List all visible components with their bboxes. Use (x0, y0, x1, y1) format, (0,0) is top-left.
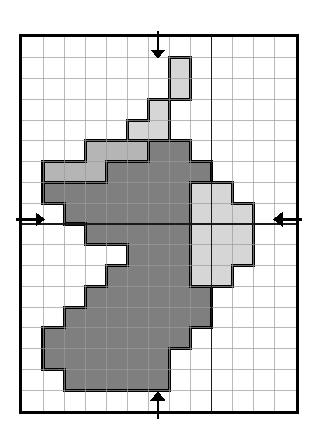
raster-cell (85, 203, 106, 224)
raster-cell (64, 182, 85, 203)
raster-cell (170, 182, 191, 203)
raster-cell (212, 224, 233, 245)
raster-cell (170, 141, 191, 162)
raster-cell (212, 182, 233, 203)
raster-cell (148, 99, 169, 120)
raster-cell (170, 286, 191, 307)
raster-cell (64, 162, 85, 183)
raster-cell (106, 141, 127, 162)
raster-cell (191, 162, 212, 183)
raster-cell (85, 307, 106, 328)
raster-cell (170, 328, 191, 349)
raster-cell (170, 266, 191, 287)
raster-cell (43, 182, 64, 203)
raster-cell (85, 349, 106, 370)
raster-cell (127, 120, 148, 141)
raster-cell (170, 162, 191, 183)
raster-cell (127, 328, 148, 349)
raster-cell (64, 307, 85, 328)
raster-cell (170, 203, 191, 224)
raster-cell (170, 245, 191, 266)
raster-cell (85, 182, 106, 203)
raster-cell (106, 286, 127, 307)
raster-cell (148, 328, 169, 349)
raster-cell (106, 266, 127, 287)
raster-cell (170, 58, 191, 79)
raster-cell (127, 349, 148, 370)
raster-cell (127, 369, 148, 390)
raster-cell (170, 224, 191, 245)
raster-cell (85, 369, 106, 390)
raster-cell (148, 266, 169, 287)
raster-cell (233, 245, 254, 266)
raster-cell (191, 286, 212, 307)
raster-cell (64, 369, 85, 390)
raster-grid-figure (0, 0, 314, 429)
raster-cell (85, 224, 106, 245)
raster-cell (148, 245, 169, 266)
raster-cell (106, 224, 127, 245)
raster-cell (148, 182, 169, 203)
raster-cell (148, 224, 169, 245)
raster-cell (64, 328, 85, 349)
raster-cell (170, 307, 191, 328)
raster-cell (127, 203, 148, 224)
raster-cell (191, 203, 212, 224)
raster-cell (106, 203, 127, 224)
raster-cell (233, 203, 254, 224)
raster-cell (85, 162, 106, 183)
raster-cell (127, 286, 148, 307)
raster-cell (148, 162, 169, 183)
raster-cell (127, 162, 148, 183)
raster-cell (212, 245, 233, 266)
raster-cell (85, 286, 106, 307)
raster-cell (212, 266, 233, 287)
raster-cell (127, 141, 148, 162)
raster-cell (148, 203, 169, 224)
raster-cell (106, 162, 127, 183)
raster-cell (106, 369, 127, 390)
raster-cell (148, 286, 169, 307)
raster-cell (191, 182, 212, 203)
raster-cell (64, 203, 85, 224)
raster-cell (127, 266, 148, 287)
raster-cell (127, 182, 148, 203)
raster-cell (191, 307, 212, 328)
raster-cell (85, 328, 106, 349)
raster-cell (106, 307, 127, 328)
raster-cell (106, 328, 127, 349)
raster-cell (43, 162, 64, 183)
raster-cell (127, 307, 148, 328)
raster-cell (106, 182, 127, 203)
raster-cell (106, 349, 127, 370)
raster-cell (148, 120, 169, 141)
raster-cell (191, 245, 212, 266)
raster-cell (43, 349, 64, 370)
raster-cell (148, 349, 169, 370)
raster-cell (191, 224, 212, 245)
raster-cell (127, 224, 148, 245)
raster-cell (43, 328, 64, 349)
raster-cell (191, 266, 212, 287)
raster-cell (85, 141, 106, 162)
raster-cell (127, 245, 148, 266)
raster-cell (212, 203, 233, 224)
raster-cell (64, 349, 85, 370)
raster-cell (148, 369, 169, 390)
raster-cell (233, 224, 254, 245)
raster-cell (148, 141, 169, 162)
raster-cell (148, 307, 169, 328)
raster-cell (170, 79, 191, 100)
raster-grid-canvas (0, 0, 314, 429)
